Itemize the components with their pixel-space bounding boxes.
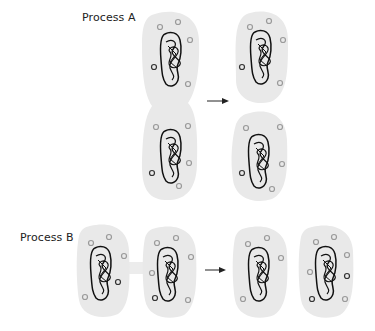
right-arrow-icon <box>222 98 229 104</box>
process-b-arrow <box>205 267 226 273</box>
process-a-daughter-cell-top <box>236 12 289 103</box>
process-b-separated-cell-right <box>299 225 354 317</box>
process-a-daughter-cell-bottom <box>232 112 288 201</box>
process-a-dividing-cell <box>142 12 199 200</box>
process-a-arrow <box>207 98 229 104</box>
process-b-joined-cells <box>77 224 197 317</box>
right-arrow-icon <box>219 267 226 273</box>
process-diagram <box>0 0 375 331</box>
process-b-separated-cell-left <box>233 226 288 317</box>
